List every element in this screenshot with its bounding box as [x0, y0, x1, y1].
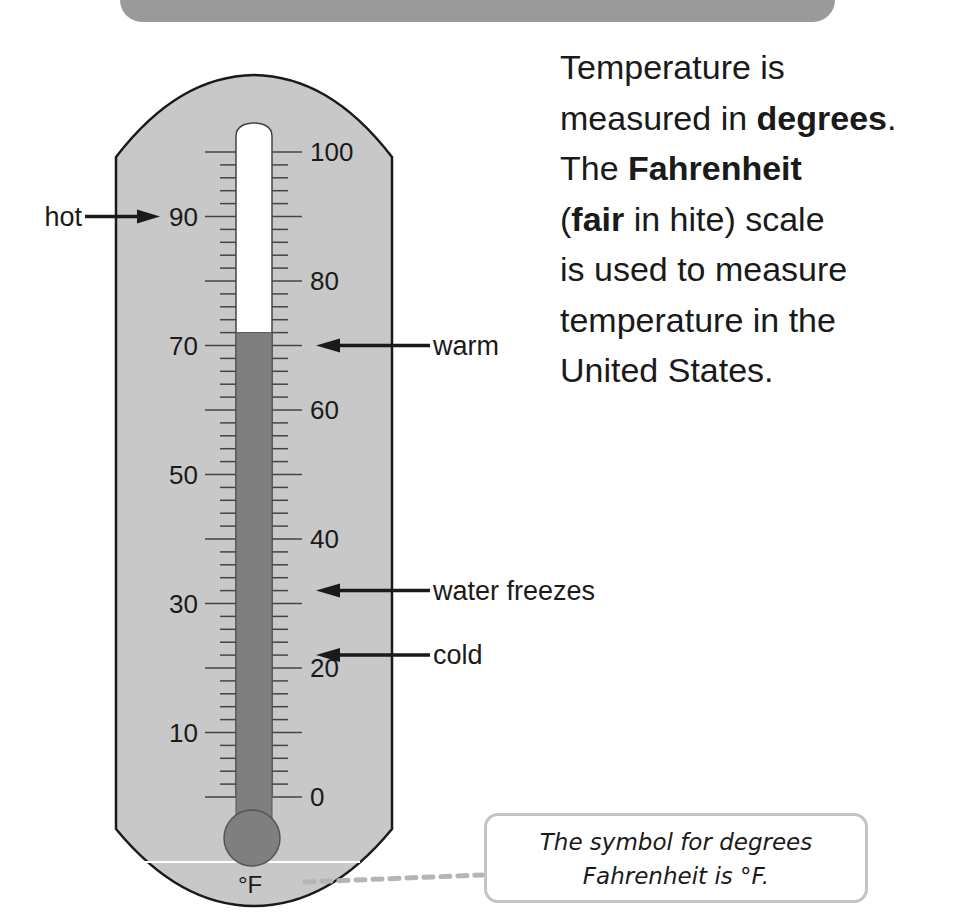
scale-label-10: 10: [169, 718, 198, 748]
bold-term: fair: [571, 200, 624, 238]
text-run: The: [560, 149, 628, 187]
scale-label-100: 100: [310, 137, 353, 167]
callout-line-2: Fahrenheit is °F.: [487, 859, 865, 893]
text-run: .: [887, 99, 896, 137]
explanation-line: temperature in the: [560, 295, 972, 346]
bold-term: Fahrenheit: [628, 149, 802, 187]
text-run: is used to measure: [560, 250, 847, 288]
scale-label-70: 70: [169, 331, 198, 361]
scale-label-30: 30: [169, 589, 198, 619]
scale-label-0: 0: [310, 782, 324, 812]
svg-text:cold: cold: [433, 640, 483, 670]
scale-label-60: 60: [310, 395, 339, 425]
explanation-line: United States.: [560, 345, 972, 396]
text-run: measured in: [560, 99, 757, 137]
svg-text:hot: hot: [44, 202, 82, 232]
text-run: in hite) scale: [624, 200, 824, 238]
scale-label-90: 90: [169, 202, 198, 232]
text-run: United States.: [560, 351, 774, 389]
explanation-line: The Fahrenheit: [560, 143, 972, 194]
text-run: (: [560, 200, 571, 238]
unit-label: °F: [238, 871, 262, 898]
scale-label-50: 50: [169, 460, 198, 490]
mercury-column: [236, 333, 272, 835]
explanation-line: (fair in hite) scale: [560, 194, 972, 245]
text-run: temperature in the: [560, 301, 836, 339]
svg-text:warm: warm: [432, 331, 499, 361]
explanation-line: is used to measure: [560, 244, 972, 295]
thermometer-bulb: [224, 810, 280, 866]
text-run: Temperature is: [560, 48, 785, 86]
explanation-line: Temperature is: [560, 42, 972, 93]
scale-label-80: 80: [310, 266, 339, 296]
svg-text:water freezes: water freezes: [432, 576, 595, 606]
explanation-text: Temperature ismeasured in degrees.The Fa…: [560, 42, 972, 396]
explanation-line: measured in degrees.: [560, 93, 972, 144]
callout-line-1: The symbol for degrees: [487, 825, 865, 859]
bold-term: degrees: [757, 99, 887, 137]
degree-symbol-callout: The symbol for degrees Fahrenheit is °F.: [484, 813, 868, 903]
scale-label-40: 40: [310, 524, 339, 554]
